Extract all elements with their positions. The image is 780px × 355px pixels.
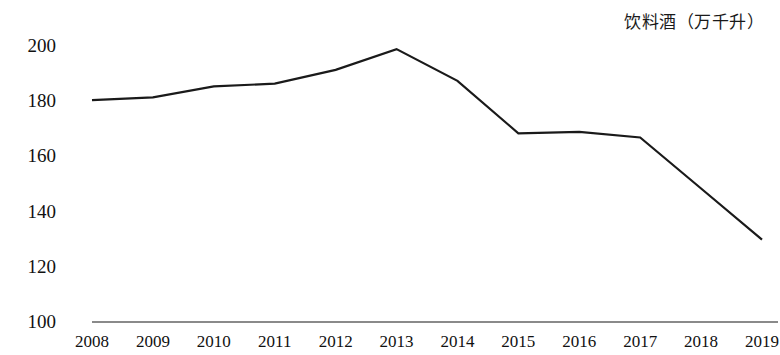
line-chart-plot bbox=[0, 0, 780, 355]
data-series-line bbox=[92, 49, 762, 239]
chart-page: 饮料酒（万千升） 100120140160180200 200820092010… bbox=[0, 0, 780, 355]
